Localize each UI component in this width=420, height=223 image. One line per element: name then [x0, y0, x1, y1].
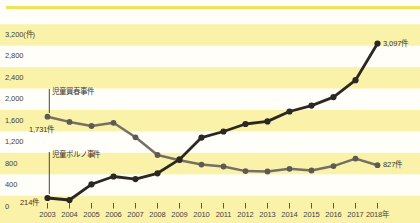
kaishun-data-point: [353, 156, 359, 162]
kaishun-data-point: [45, 114, 51, 120]
y-axis-tick-label: 3,200(件): [5, 31, 35, 39]
y-axis-tick-label: 800: [5, 160, 17, 168]
porno-data-point: [264, 118, 270, 124]
y-axis-tick-label: 2,800: [5, 52, 23, 60]
value-label-kaishun-start: 1,731件: [29, 126, 54, 134]
porno-data-point: [220, 128, 226, 134]
kaishun-data-point: [243, 168, 249, 174]
kaishun-data-point: [199, 162, 205, 168]
line-chart: [0, 0, 420, 223]
value-label-porno-end: 3,097件: [383, 40, 408, 48]
series-label-porno: 児童ポルノ事件: [52, 151, 100, 159]
kaishun-data-point: [331, 163, 337, 169]
y-axis-tick-label: 1,200: [5, 138, 23, 146]
porno-data-point: [88, 181, 94, 187]
chart-panel: 04008001,2001,6002,0002,4002,8003,200(件)…: [0, 0, 420, 223]
porno-data-point: [176, 156, 182, 162]
porno-data-point: [242, 121, 248, 127]
y-axis-tick-label: 2,000: [5, 95, 23, 103]
porno-data-point: [330, 94, 336, 100]
y-axis-tick-label: 400: [5, 181, 17, 189]
kaishun-data-point: [287, 166, 293, 172]
porno-data-point: [154, 170, 160, 176]
porno-data-point: [308, 103, 314, 109]
kaishun-data-point: [155, 152, 161, 158]
value-label-kaishun-end: 827件: [383, 161, 402, 169]
series-label-kaishun: 児童買春事件: [52, 88, 93, 96]
kaishun-data-point: [265, 169, 271, 175]
porno-data-point: [44, 195, 50, 201]
porno-data-point: [198, 135, 204, 141]
kaishun-data-point: [221, 164, 227, 170]
porno-data-point: [132, 176, 138, 182]
porno-data-point: [374, 40, 380, 46]
porno-data-point: [66, 197, 72, 203]
y-axis-tick-label: 1,600: [5, 117, 23, 125]
y-axis-tick-label: 0: [5, 203, 9, 211]
porno-data-point: [110, 173, 116, 179]
porno-data-point: [352, 77, 358, 83]
kaishun-data-point: [309, 168, 315, 174]
y-axis-tick-label: 2,400: [5, 74, 23, 82]
value-label-porno-start: 214件: [20, 199, 39, 207]
kaishun-data-point: [133, 134, 139, 140]
x-axis-tick-label: 2018年: [364, 211, 392, 219]
kaishun-data-point: [111, 120, 117, 126]
kaishun-data-point: [67, 119, 73, 125]
kaishun-data-point: [89, 123, 95, 129]
background-band: [0, 24, 420, 45]
kaishun-data-point: [375, 162, 381, 168]
porno-data-point: [286, 108, 292, 114]
